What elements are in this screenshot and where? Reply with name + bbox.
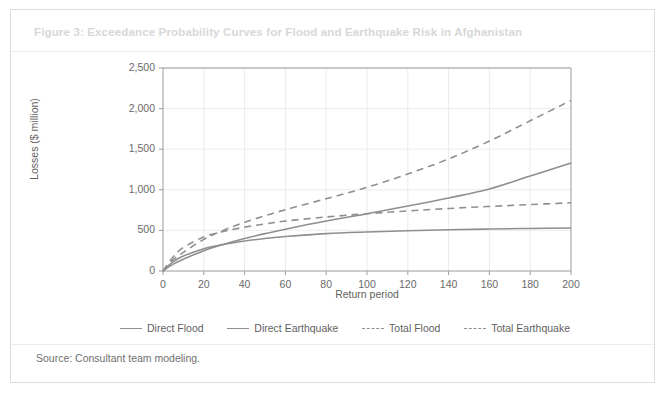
legend-item-total-earthquake[interactable]: Total Earthquake xyxy=(464,322,570,334)
legend-label-total-earthquake: Total Earthquake xyxy=(491,322,570,334)
legend-swatch-total-earthquake xyxy=(464,328,486,329)
y-tick-label: 2,500 xyxy=(103,61,155,73)
chart-area: 05001,0001,5002,0002,500 020406080100120… xyxy=(0,0,666,394)
y-tick-label: 2,000 xyxy=(103,102,155,114)
chart-legend: Direct FloodDirect EarthquakeTotal Flood… xyxy=(120,322,570,334)
legend-label-total-flood: Total Flood xyxy=(389,322,440,334)
legend-label-direct-flood: Direct Flood xyxy=(147,322,204,334)
legend-item-total-flood[interactable]: Total Flood xyxy=(362,322,440,334)
legend-swatch-total-flood xyxy=(362,328,384,329)
y-tick-label: 500 xyxy=(103,223,155,235)
y-tick-label: 1,500 xyxy=(103,142,155,154)
x-axis-title: Return period xyxy=(163,288,571,300)
legend-swatch-direct-earthquake xyxy=(227,328,249,329)
legend-item-direct-earthquake[interactable]: Direct Earthquake xyxy=(227,322,338,334)
y-axis-title: Losses ($ million) xyxy=(28,69,40,209)
y-tick-label: 1,000 xyxy=(103,183,155,195)
axis-ticks xyxy=(159,68,571,275)
y-tick-label: 0 xyxy=(103,264,155,276)
legend-item-direct-flood[interactable]: Direct Flood xyxy=(120,322,204,334)
exceedance-probability-line-chart xyxy=(0,0,666,394)
gridlines xyxy=(163,68,571,271)
legend-label-direct-earthquake: Direct Earthquake xyxy=(254,322,338,334)
legend-swatch-direct-flood xyxy=(120,328,142,329)
